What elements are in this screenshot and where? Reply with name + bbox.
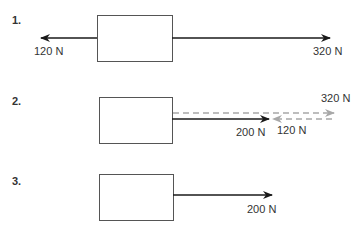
object-box bbox=[98, 16, 173, 62]
force-label-320: 320 N bbox=[321, 92, 350, 104]
diagram-2 bbox=[100, 98, 335, 144]
diagram-3-number: 3. bbox=[12, 175, 21, 187]
diagram-1 bbox=[41, 16, 330, 62]
object-box bbox=[100, 98, 173, 144]
diagram-1-number: 1. bbox=[12, 14, 21, 26]
force-diagrams-canvas bbox=[0, 0, 359, 233]
force-label-120: 120 N bbox=[34, 45, 63, 57]
force-label-120: 120 N bbox=[277, 124, 306, 136]
diagram-2-number: 2. bbox=[12, 95, 21, 107]
object-box bbox=[100, 175, 174, 221]
force-label-320: 320 N bbox=[313, 45, 342, 57]
resultant-label-200: 200 N bbox=[247, 203, 276, 215]
resultant-label-200: 200 N bbox=[236, 126, 265, 138]
